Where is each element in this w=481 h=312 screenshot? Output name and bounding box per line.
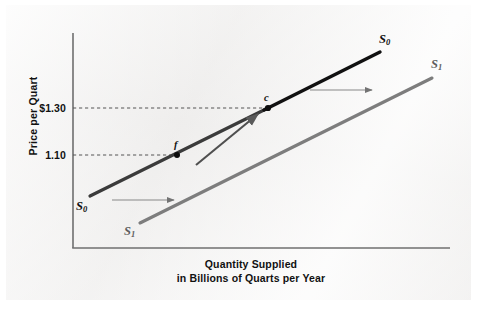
y-tick-label-110: 1.10 [18,149,66,161]
y-axis-title: Price per Quart [27,60,39,172]
x-axis-title-line2: in Billions of Quarts per Year [120,272,382,286]
curve-label-s0-upper-base: S [379,32,386,46]
x-axis-title: Quantity Supplied in Billions of Quarts … [120,258,382,285]
y-tick-label-130: $1.30 [18,102,66,114]
data-point-f [174,152,180,158]
curve-label-s0-lower: S0 [76,199,87,214]
x-axis-title-line1: Quantity Supplied [120,258,382,272]
curve-label-s0-lower-sub: 0 [83,204,87,214]
data-point-c [265,105,271,111]
curve-label-s1-upper-sub: 1 [438,62,442,72]
supply-curve-s0-lower [90,108,268,196]
curve-label-s1-lower-sub: 1 [131,229,135,239]
supply-curve-s0-upper [264,52,380,110]
curve-label-s1-lower: S1 [124,224,135,239]
curve-label-s1-lower-base: S [124,224,131,238]
point-label-c: c [264,92,269,103]
curve-label-s0-upper-sub: 0 [386,37,390,47]
supply-curve-figure: $1.30 1.10 Price per Quart Quantity Supp… [0,0,481,312]
curve-label-s1-upper: S1 [431,57,442,72]
curve-label-s0-lower-base: S [76,199,83,213]
curve-label-s0-upper: S0 [379,32,390,47]
point-label-f: f [174,139,178,150]
curve-label-s1-upper-base: S [431,57,438,71]
